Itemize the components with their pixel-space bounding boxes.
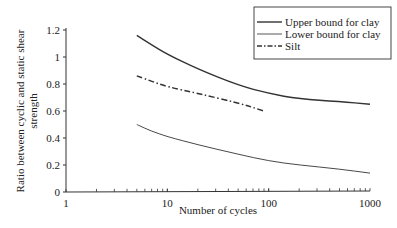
legend-label-upper: Upper bound for clay [285, 16, 380, 28]
x-tick-label: 100 [260, 197, 277, 209]
legend-label-silt: Silt [285, 40, 300, 52]
series-line-lower-bound-for-clay [137, 125, 370, 174]
legend: Upper bound for clay Lower bound for cla… [254, 7, 391, 59]
svg-text:Ratio between cyclic and stati: Ratio between cyclic and static shear [14, 29, 26, 192]
svg-text:strength: strength [27, 93, 39, 129]
legend-label-lower: Lower bound for clay [285, 28, 381, 40]
y-tick-label: 0.4 [46, 132, 60, 144]
series-line-silt [137, 76, 264, 111]
y-tick-label: 1.2 [46, 24, 60, 36]
y-axis-title: Ratio between cyclic and static shear st… [14, 29, 39, 192]
y-tick-label: 0.8 [46, 78, 60, 90]
x-axis-title: Number of cycles [179, 204, 257, 216]
x-tick-label: 1000 [359, 197, 382, 209]
chart: 00.20.40.60.811.2 1101001000 Number of c… [0, 0, 397, 228]
x-axis-line [66, 191, 370, 192]
y-tick-label: 0 [55, 186, 61, 198]
x-tick-label: 10 [162, 197, 174, 209]
y-tick-label: 1 [55, 51, 61, 63]
x-tick-label: 1 [63, 197, 69, 209]
y-tick-label: 0.6 [46, 105, 60, 117]
y-axis-ticks: 00.20.40.60.811.2 [46, 24, 66, 198]
y-tick-label: 0.2 [46, 159, 60, 171]
